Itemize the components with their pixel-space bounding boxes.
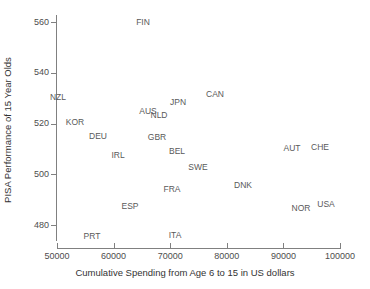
y-axis-tick-label: 480 xyxy=(28,221,49,230)
x-axis-tick xyxy=(340,243,341,249)
data-point-label-jpn: JPN xyxy=(170,98,186,107)
x-axis-tick-label: 80000 xyxy=(214,252,239,261)
data-point-label-gbr: GBR xyxy=(148,133,166,142)
x-axis-tick xyxy=(170,243,171,249)
y-axis-tick xyxy=(51,124,57,125)
scatter-plot-figure: 5000060000700008000090000100000480500520… xyxy=(0,0,370,289)
data-point-label-esp: ESP xyxy=(121,202,138,211)
data-point-label-kor: KOR xyxy=(66,118,84,127)
x-axis-tick-label: 50000 xyxy=(44,252,69,261)
y-axis-line xyxy=(56,15,57,241)
y-axis-tick-label: 540 xyxy=(28,68,49,77)
x-axis-title: Cumulative Spending from Age 6 to 15 in … xyxy=(0,267,370,279)
y-axis-tick-label: 520 xyxy=(28,119,49,128)
x-axis-line xyxy=(57,248,341,249)
y-axis-tick xyxy=(51,174,57,175)
data-point-label-aut: AUT xyxy=(284,144,301,153)
data-point-label-irl: IRL xyxy=(111,151,124,160)
y-axis-tick xyxy=(51,225,57,226)
data-point-label-fin: FIN xyxy=(136,18,150,27)
data-point-label-prt: PRT xyxy=(84,232,101,241)
x-axis-tick xyxy=(114,243,115,249)
y-axis-tick xyxy=(51,73,57,74)
data-point-label-che: CHE xyxy=(311,143,329,152)
data-point-label-ita: ITA xyxy=(169,231,182,240)
data-point-label-can: CAN xyxy=(206,90,224,99)
y-axis-tick xyxy=(51,22,57,23)
x-axis-tick-label: 60000 xyxy=(101,252,126,261)
data-point-label-dnk: DNK xyxy=(234,181,252,190)
x-axis-tick xyxy=(283,243,284,249)
x-axis-tick-label: 70000 xyxy=(158,252,183,261)
x-axis-tick-label: 100000 xyxy=(325,252,355,261)
data-point-label-deu: DEU xyxy=(89,132,107,141)
x-axis-tick xyxy=(227,243,228,249)
data-point-label-nor: NOR xyxy=(292,204,311,213)
data-point-label-fra: FRA xyxy=(164,185,181,194)
data-point-label-swe: SWE xyxy=(188,163,207,172)
data-point-label-usa: USA xyxy=(317,200,334,209)
y-axis-title: PISA Performance of 15 Year Olds xyxy=(2,10,14,250)
x-axis-tick xyxy=(57,243,58,249)
data-point-label-nld: NLD xyxy=(150,111,167,120)
y-axis-tick-label: 560 xyxy=(28,18,49,27)
data-point-label-bel: BEL xyxy=(169,147,185,156)
y-axis-tick-label: 500 xyxy=(28,170,49,179)
data-point-label-nzl: NZL xyxy=(50,93,66,102)
x-axis-tick-label: 90000 xyxy=(271,252,296,261)
